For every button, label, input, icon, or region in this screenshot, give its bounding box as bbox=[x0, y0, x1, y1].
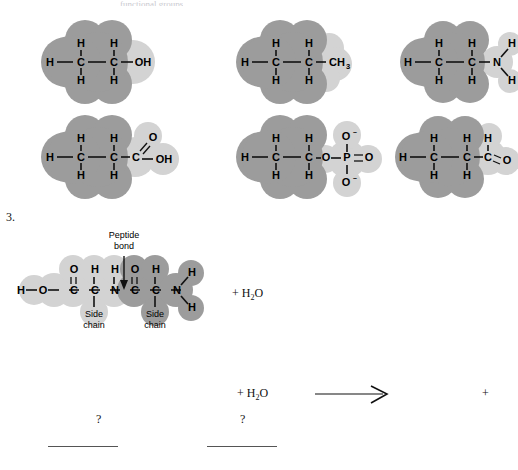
reaction-water-term: + H2O bbox=[237, 386, 268, 402]
dipeptide-water-suffix: O bbox=[254, 286, 263, 300]
atom-h-top1: H bbox=[272, 132, 280, 144]
reaction-water-suffix: O bbox=[259, 386, 268, 400]
atom-o-right: O bbox=[365, 151, 374, 163]
dipeptide-water-prefix: + H bbox=[232, 286, 250, 300]
atom-h-left: H bbox=[404, 56, 412, 68]
atom-h-bot2: H bbox=[305, 74, 313, 86]
atom-o-bottom: O bbox=[342, 176, 351, 188]
atom-h-top1: H bbox=[77, 37, 85, 49]
atom-c2: C bbox=[463, 151, 471, 163]
atom-h-bot2: H bbox=[468, 74, 476, 86]
atom-c1: C bbox=[77, 151, 85, 163]
atom-h-bot1: H bbox=[77, 74, 85, 86]
charge-top: – bbox=[353, 128, 357, 135]
atom-c1: C bbox=[272, 56, 280, 68]
atom-h-bot1: H bbox=[77, 169, 85, 181]
molecule-hydroxyl: H C C H H H H OH bbox=[30, 18, 170, 106]
atom-c-carbonyl-2: C bbox=[131, 284, 139, 296]
atom-h-top3: H bbox=[484, 132, 492, 144]
atom-h-top2: H bbox=[110, 37, 118, 49]
atom-h-bot1: H bbox=[272, 169, 280, 181]
atom-h-bot2: H bbox=[110, 169, 118, 181]
peptide-bond-label-line1: Peptide bbox=[109, 230, 140, 240]
atom-h-top1: H bbox=[430, 132, 438, 144]
atom-o-double: O bbox=[149, 131, 158, 143]
molecule-carboxyl: H C C C H H H H O OH bbox=[30, 113, 185, 201]
atom-h-bot2: H bbox=[110, 74, 118, 86]
atom-h-left: H bbox=[399, 151, 407, 163]
atom-c1: C bbox=[430, 151, 438, 163]
atom-phosphorus: P bbox=[343, 151, 350, 163]
atom-h-amide: H bbox=[111, 263, 119, 275]
atom-h-top1: H bbox=[272, 37, 280, 49]
side-chain-label-2-line1: Side bbox=[146, 309, 164, 319]
molecule-phosphate: H C C O P H H H H O – O – O bbox=[225, 113, 380, 208]
atom-h-terminal: H bbox=[17, 284, 25, 296]
molecule-carbonyl: H C C C H H H H H O bbox=[393, 113, 518, 201]
group-label-methyl: CH bbox=[329, 56, 345, 68]
atom-c2: C bbox=[110, 151, 118, 163]
question-number: 3. bbox=[6, 210, 15, 225]
reaction-water-prefix: + H bbox=[237, 386, 255, 400]
answer-blank-1-question-mark: ? bbox=[96, 412, 101, 427]
top-text-fragment: functional groups bbox=[120, 0, 183, 6]
atom-h-bot1: H bbox=[430, 169, 438, 181]
atom-c2: C bbox=[110, 56, 118, 68]
molecule-amino: H C C H H H H N H H bbox=[398, 18, 518, 106]
side-chain-label-1-line2: chain bbox=[83, 320, 105, 330]
atom-o-carbonyl-1: O bbox=[70, 263, 79, 275]
atom-h-alpha-1: H bbox=[91, 263, 99, 275]
atom-nitrogen: N bbox=[493, 56, 501, 68]
atom-n-h-lower: H bbox=[508, 74, 516, 86]
group-label-hydroxyl: OH bbox=[135, 56, 152, 68]
side-chain-label-2-line2: chain bbox=[144, 320, 166, 330]
worksheet-page: functional groups bbox=[0, 0, 518, 470]
atom-h-top1: H bbox=[435, 37, 443, 49]
atom-h-bot1: H bbox=[435, 74, 443, 86]
atom-o-ester: O bbox=[322, 151, 331, 163]
atom-h-alpha-2: H bbox=[152, 263, 160, 275]
atom-h-bot2: H bbox=[463, 169, 471, 181]
atom-c-alpha-2: C bbox=[152, 284, 160, 296]
atom-h-bot2: H bbox=[305, 169, 313, 181]
atom-h-top2: H bbox=[463, 132, 471, 144]
side-chain-label-1-line1: Side bbox=[85, 309, 103, 319]
atom-c2: C bbox=[468, 56, 476, 68]
atom-n-h-upper: H bbox=[508, 37, 516, 49]
answer-blank-line-2[interactable] bbox=[207, 446, 277, 447]
atom-h-top2: H bbox=[305, 37, 313, 49]
charge-bottom: – bbox=[353, 174, 357, 181]
atom-c2: C bbox=[305, 56, 313, 68]
atom-c1: C bbox=[77, 56, 85, 68]
atom-h-left: H bbox=[46, 151, 54, 163]
atom-c-alpha-1: C bbox=[91, 284, 99, 296]
peptide-bond-label-line2: bond bbox=[114, 241, 134, 251]
answer-blank-line-1[interactable] bbox=[48, 446, 118, 447]
atom-c-carboxyl: C bbox=[132, 151, 140, 163]
atom-o-hydroxyl: O bbox=[39, 284, 48, 296]
atom-n-amide: N bbox=[111, 284, 119, 296]
atom-h-left: H bbox=[46, 56, 54, 68]
atom-n-h-lower: H bbox=[188, 301, 196, 313]
molecule-methyl: H C C H H H H CH 3 bbox=[225, 18, 375, 106]
atom-n-h-upper: H bbox=[188, 266, 196, 278]
atom-c1: C bbox=[435, 56, 443, 68]
atom-o-double: O bbox=[503, 154, 512, 166]
atom-c2: C bbox=[305, 151, 313, 163]
atom-h-left: H bbox=[241, 56, 249, 68]
atom-o-carbonyl-2: O bbox=[131, 263, 140, 275]
atom-h-left: H bbox=[241, 151, 249, 163]
atom-h-top1: H bbox=[77, 132, 85, 144]
atom-c-carbonyl-1: C bbox=[70, 284, 78, 296]
atom-h-top2: H bbox=[305, 132, 313, 144]
atom-n-terminal: N bbox=[173, 284, 181, 296]
answer-blank-2-question-mark: ? bbox=[240, 412, 245, 427]
atom-h-top2: H bbox=[110, 132, 118, 144]
atom-c1: C bbox=[272, 151, 280, 163]
atom-h-top2: H bbox=[468, 37, 476, 49]
atom-c-carbonyl: C bbox=[484, 151, 492, 163]
dipeptide-diagram: Peptide bond H O C O C H N H C O C H N H… bbox=[10, 228, 240, 343]
atom-o-top: O bbox=[342, 130, 351, 142]
group-label-methyl-subscript: 3 bbox=[346, 62, 350, 71]
dipeptide-water-term: + H2O bbox=[232, 286, 263, 302]
